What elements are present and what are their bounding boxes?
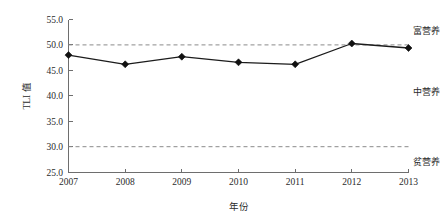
y-tick-label-55: 55.0 bbox=[46, 15, 63, 25]
x-tick-label-2012: 2012 bbox=[342, 177, 361, 187]
y-tick-label-30: 30.0 bbox=[46, 142, 63, 152]
x-tick-label-2009: 2009 bbox=[172, 177, 191, 187]
y-tick-label-35: 35.0 bbox=[46, 117, 63, 127]
data-point-2010 bbox=[235, 59, 242, 66]
data-point-2013 bbox=[405, 45, 412, 52]
x-tick-label-2008: 2008 bbox=[116, 177, 135, 187]
x-axis-title: 年份 bbox=[229, 201, 249, 212]
data-point-2012 bbox=[348, 40, 355, 47]
x-tick-label-2007: 2007 bbox=[59, 177, 78, 187]
x-tick-label-2010: 2010 bbox=[229, 177, 248, 187]
zone-label-mesotrophic: 中营养 bbox=[413, 86, 440, 97]
x-tick-label-2011: 2011 bbox=[286, 177, 305, 187]
y-axis-title: TLI 值 bbox=[21, 82, 32, 109]
y-tick-label-50: 50.0 bbox=[46, 40, 63, 50]
y-tick-label-40: 40.0 bbox=[46, 91, 63, 101]
data-point-2007 bbox=[65, 52, 72, 59]
data-point-2009 bbox=[178, 53, 185, 60]
zone-label-eutrophic: 富营养 bbox=[413, 25, 440, 36]
data-point-2008 bbox=[122, 61, 129, 68]
zone-label-oligotrophic: 贫营养 bbox=[413, 156, 440, 167]
y-tick-label-45: 45.0 bbox=[46, 66, 63, 76]
data-point-2011 bbox=[292, 61, 299, 68]
chart-canvas: 55.0 50.0 45.0 40.0 35.0 30.0 25.0 2007 … bbox=[0, 0, 443, 223]
tli-trend-chart: 55.0 50.0 45.0 40.0 35.0 30.0 25.0 2007 … bbox=[0, 0, 443, 223]
x-tick-label-2013: 2013 bbox=[399, 177, 418, 187]
